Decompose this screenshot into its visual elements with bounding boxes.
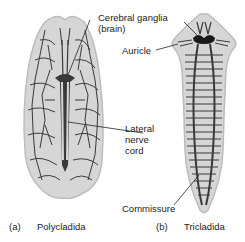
label-cord: cord bbox=[125, 146, 143, 156]
panel-a-name: Polycladida bbox=[37, 222, 86, 232]
panel-b-letter: (b) bbox=[156, 222, 168, 232]
label-commissure: Commissure bbox=[122, 204, 175, 214]
tricladida-body bbox=[172, 14, 236, 213]
label-lateral: Lateral bbox=[125, 124, 154, 134]
panel-b-name: Tricladida bbox=[184, 222, 225, 232]
label-auricle: Auricle bbox=[122, 46, 151, 56]
polycladida-body bbox=[24, 16, 103, 198]
panel-a-letter: (a) bbox=[9, 222, 21, 232]
label-nerve: nerve bbox=[125, 135, 149, 145]
label-cerebral-ganglia: Cerebral ganglia bbox=[98, 13, 168, 23]
label-brain: (brain) bbox=[98, 24, 125, 34]
